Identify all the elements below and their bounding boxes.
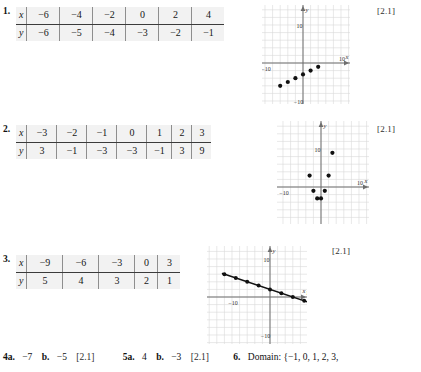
cell-y-5: −1 xyxy=(192,24,225,41)
answer-4a-value: −7 xyxy=(22,352,32,362)
x-axis-label: x xyxy=(364,177,368,184)
grid-lines xyxy=(262,5,350,104)
table-1-grid: x −6 −4 −2 0 2 4 y −6 −5 −4 −3 −2 −1 xyxy=(16,7,224,41)
cell-x-1: −6 xyxy=(63,255,99,272)
data-point xyxy=(293,76,297,80)
problem-number-2: 2. xyxy=(3,124,10,134)
cell-x-0: −6 xyxy=(27,7,60,24)
table-row: x −3 −2 −1 0 1 2 3 xyxy=(16,125,211,142)
table-row: x −6 −4 −2 0 2 4 xyxy=(16,7,224,24)
cell-x-5: 4 xyxy=(192,7,225,24)
cell-x-1: −4 xyxy=(60,7,93,24)
data-point xyxy=(234,276,238,280)
coordinate-graph-1: xy−101010−10 xyxy=(262,5,350,104)
data-point xyxy=(315,196,319,200)
x-tick-minus10: −10 xyxy=(262,66,271,72)
graph-canvas: xy−101010−10 xyxy=(262,5,350,104)
row-label-y: y xyxy=(16,142,27,159)
y-tick-10: 10 xyxy=(315,147,321,153)
problem-row-2: 2. x −3 −2 −1 0 1 2 3 y 3 −1 −3 xyxy=(0,118,421,230)
y-tick-minus10: −10 xyxy=(312,223,321,225)
coordinate-graph-2: xy−101010−10 xyxy=(277,121,369,224)
row-label-x: x xyxy=(16,255,27,272)
data-point xyxy=(309,69,313,73)
cell-y-2: −3 xyxy=(87,142,117,159)
grid-lines xyxy=(207,246,307,344)
answer-4a-number: 4a. xyxy=(3,352,15,362)
answer-4b-label: b. xyxy=(42,352,50,362)
cell-x-0: −3 xyxy=(27,125,57,142)
answer-5b-value: −3 xyxy=(171,352,181,362)
data-point xyxy=(279,291,283,295)
row-label-y: y xyxy=(16,272,27,289)
cell-x-4: 1 xyxy=(147,125,172,142)
data-point xyxy=(301,72,305,76)
data-point xyxy=(291,295,295,299)
data-point xyxy=(278,84,282,88)
answer-4-section-tag: [2.1] xyxy=(76,352,94,362)
graph-canvas: xy−101010−10 xyxy=(277,121,369,224)
graph-canvas: xy−101010−10 xyxy=(207,246,307,344)
answer-6-number: 6. xyxy=(233,352,240,362)
cell-x-2: −1 xyxy=(87,125,117,142)
cell-y-3: −3 xyxy=(117,142,147,159)
y-axis-label: y xyxy=(305,6,309,13)
data-table-3: x −9 −6 −3 0 3 y 5 4 3 2 1 xyxy=(16,255,180,289)
cell-y-0: 5 xyxy=(27,272,63,289)
cell-y-1: −5 xyxy=(60,24,93,41)
cell-x-5: 2 xyxy=(172,125,192,142)
data-point xyxy=(330,151,334,155)
data-point xyxy=(286,80,290,84)
row-label-x: x xyxy=(16,125,27,142)
answer-4b-value: −5 xyxy=(57,352,67,362)
data-point xyxy=(222,272,226,276)
problem-row-1: 1. x −6 −4 −2 0 2 4 y −6 −5 −4 −3 xyxy=(0,0,421,112)
y-axis-label: y xyxy=(323,122,327,129)
cell-y-1: 4 xyxy=(63,272,99,289)
cell-y-4: −2 xyxy=(159,24,192,41)
y-tick-minus10: −10 xyxy=(261,333,270,339)
data-point xyxy=(323,189,327,193)
answer-key-page: 1. x −6 −4 −2 0 2 4 y −6 −5 −4 −3 xyxy=(0,0,421,372)
cell-x-3: 0 xyxy=(135,255,158,272)
cell-y-2: 3 xyxy=(99,272,135,289)
cell-x-1: −2 xyxy=(57,125,87,142)
cell-y-4: −1 xyxy=(147,142,172,159)
data-point xyxy=(316,65,320,69)
cell-y-0: 3 xyxy=(27,142,57,159)
answer-6-text: Domain: {−1, 0, 1, 2, 3, xyxy=(248,352,339,362)
cell-x-2: −3 xyxy=(99,255,135,272)
x-tick-10: 10 xyxy=(357,180,363,186)
section-tag-1: [2.1] xyxy=(377,6,395,16)
cell-x-4: 3 xyxy=(158,255,181,272)
table-row: x −9 −6 −3 0 3 xyxy=(16,255,180,272)
data-point xyxy=(268,287,272,291)
cell-x-6: 3 xyxy=(192,125,212,142)
cell-x-2: −2 xyxy=(93,7,126,24)
section-tag-3: [2.1] xyxy=(332,246,350,256)
table-row: y −6 −5 −4 −3 −2 −1 xyxy=(16,24,224,41)
data-point xyxy=(327,174,331,178)
data-table-2: x −3 −2 −1 0 1 2 3 y 3 −1 −3 −3 −1 3 xyxy=(16,125,211,159)
axes xyxy=(207,246,307,344)
y-tick-10: 10 xyxy=(264,257,270,263)
cell-x-3: 0 xyxy=(126,7,159,24)
answer-5b-label: b. xyxy=(156,352,164,362)
coordinate-graph-3: xy−101010−10 xyxy=(207,246,307,344)
y-tick-10: 10 xyxy=(297,23,303,29)
answer-5a-number: 5a. xyxy=(123,352,135,362)
y-axis-label: y xyxy=(272,247,276,254)
cell-y-4: 1 xyxy=(158,272,181,289)
cell-x-3: 0 xyxy=(117,125,147,142)
cell-y-3: 2 xyxy=(135,272,158,289)
data-point xyxy=(319,196,323,200)
section-tag-2: [2.1] xyxy=(377,124,395,134)
x-tick-10: 10 xyxy=(339,56,345,62)
cell-x-0: −9 xyxy=(27,255,63,272)
cell-y-6: 9 xyxy=(192,142,212,159)
x-tick-minus10: −10 xyxy=(228,300,237,306)
table-2-grid: x −3 −2 −1 0 1 2 3 y 3 −1 −3 −3 −1 3 xyxy=(16,125,211,159)
data-point xyxy=(308,174,312,178)
problem-row-3: 3. x −9 −6 −3 0 3 y 5 4 3 2 1 xyxy=(0,236,421,348)
table-row: y 3 −1 −3 −3 −1 3 9 xyxy=(16,142,211,159)
